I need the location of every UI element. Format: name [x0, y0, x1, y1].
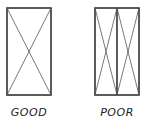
- good-frame: [7, 8, 51, 95]
- good-label: GOOD: [4, 106, 54, 119]
- poor-label: POOR: [92, 106, 142, 119]
- poor-frame: [95, 8, 139, 95]
- diagram-canvas: [0, 0, 143, 123]
